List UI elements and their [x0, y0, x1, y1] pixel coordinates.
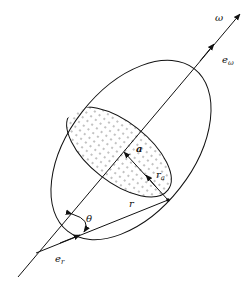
r-label: r — [129, 198, 135, 209]
omega-label: ω — [215, 12, 223, 23]
r-vector — [36, 200, 168, 253]
e-omega-label: eω — [222, 54, 234, 67]
theta-arc — [72, 214, 86, 232]
e-r-arrow — [60, 235, 80, 243]
e-r-label: er — [55, 253, 65, 266]
axis-unit-arrow — [200, 44, 214, 61]
point-p — [166, 198, 170, 202]
rotation-diagram: ω eω a ra r θ er — [0, 0, 251, 286]
cross-section-ellipse — [52, 90, 187, 214]
theta-label: θ — [86, 213, 92, 224]
a-label: a — [136, 143, 142, 154]
